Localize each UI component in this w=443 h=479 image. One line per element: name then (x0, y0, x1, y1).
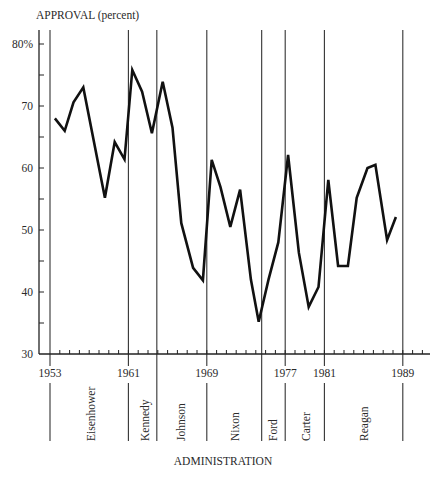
x-axis-title: ADMINISTRATION (174, 455, 273, 467)
y-tick-label: 60 (22, 162, 34, 174)
x-tick-label: 1953 (39, 367, 62, 379)
axes (39, 30, 430, 354)
y-tick-label: 70 (22, 100, 34, 112)
approval-line (55, 70, 396, 322)
y-tick-label: 80% (12, 38, 34, 50)
x-tick-label: 1969 (195, 367, 218, 379)
x-tick-label: 1981 (313, 367, 336, 379)
administration-label-kennedy: Kennedy (139, 399, 152, 441)
y-tick-label: 30 (22, 348, 34, 360)
administration-label-reagan: Reagan (358, 406, 371, 441)
administration-label-carter: Carter (300, 412, 312, 441)
y-axis-title: APPROVAL (percent) (36, 9, 139, 22)
x-tick-label: 1961 (117, 367, 140, 379)
administration-label-johnson: Johnson (175, 403, 187, 441)
administration-label-eisenhower: Eisenhower (85, 387, 97, 441)
administration-label-ford: Ford (267, 419, 279, 441)
y-tick-label: 50 (22, 224, 34, 236)
x-tick-label: 1977 (274, 367, 297, 379)
x-tick-label: 1989 (391, 367, 414, 379)
y-tick-label: 40 (22, 286, 34, 298)
administration-boundary-lines (50, 30, 403, 441)
administration-label-nixon: Nixon (229, 412, 241, 441)
approval-chart: APPROVAL (percent) 304050607080% 1953196… (0, 0, 443, 479)
